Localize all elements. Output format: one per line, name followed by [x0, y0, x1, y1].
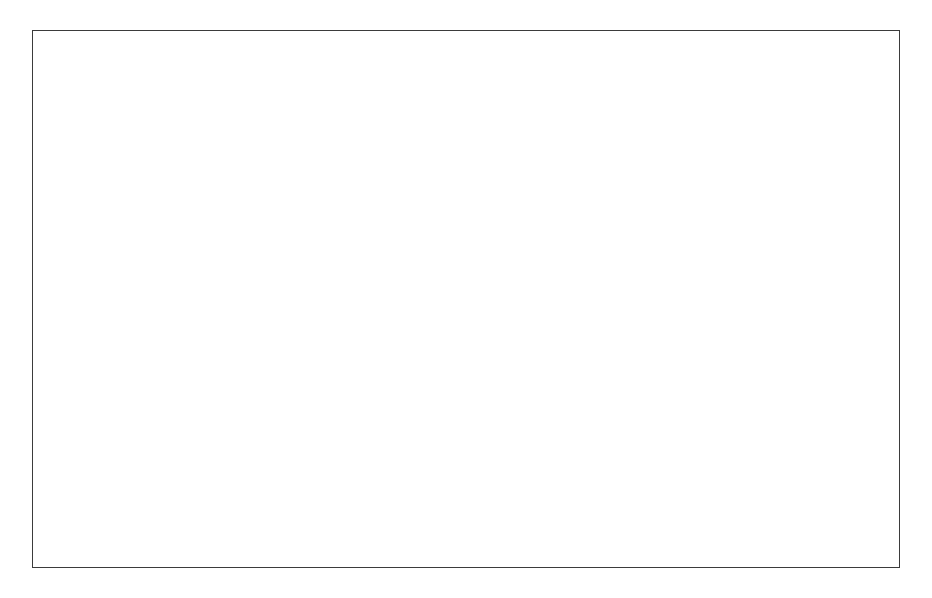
chart-outer-frame	[32, 30, 900, 568]
chart-figure: 120.0115.0110.0105.0100.095.090.085.080.…	[0, 0, 932, 598]
